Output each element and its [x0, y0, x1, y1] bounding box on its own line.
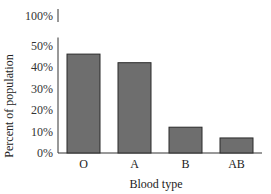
y-tick-labels: 0%10%20%30%40%50%100%: [25, 9, 53, 160]
y-tick-label: 50%: [31, 39, 53, 53]
x-tick-label: AB: [228, 157, 245, 171]
y-tick-label: 10%: [31, 125, 53, 139]
bars: [67, 54, 253, 153]
bar-chart: 0%10%20%30%40%50%100% OABAB Blood type P…: [0, 0, 271, 194]
y-tick-label: 30%: [31, 82, 53, 96]
x-tick-labels: OABAB: [79, 157, 245, 171]
bar-O: [67, 54, 100, 153]
y-tick-label: 40%: [31, 60, 53, 74]
bar-A: [118, 63, 151, 153]
x-tick-label: B: [181, 157, 189, 171]
y-axis-title: Percent of population: [2, 54, 16, 157]
x-tick-label: A: [130, 157, 139, 171]
bar-AB: [220, 138, 253, 153]
x-axis-title: Blood type: [130, 177, 183, 191]
x-tick-label: O: [79, 157, 88, 171]
y-tick-label: 20%: [31, 103, 53, 117]
bar-B: [169, 127, 202, 153]
y-tick-label: 0%: [37, 146, 53, 160]
y-tick-label: 100%: [25, 9, 53, 23]
